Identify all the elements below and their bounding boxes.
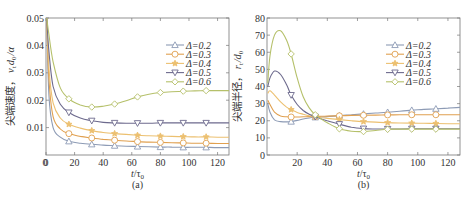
y-tick-label: 30	[255, 98, 265, 109]
diamond-marker	[203, 87, 209, 93]
circle-marker	[288, 114, 294, 120]
legend: Δ=0.2Δ=0.3Δ=0.4Δ=0.5Δ=0.6	[386, 40, 431, 88]
x-tick-label: 0	[43, 157, 48, 168]
series-group	[268, 31, 460, 135]
diamond-marker	[134, 94, 140, 100]
y-axis-label: 尖端速度，vtd0/α	[4, 47, 18, 126]
legend-diamond-marker	[172, 79, 178, 85]
star-marker	[409, 120, 415, 126]
star-marker	[433, 120, 439, 126]
legend-circle-marker	[392, 51, 398, 57]
x-tick-label: 60	[352, 157, 362, 168]
x-tick-label: 80	[155, 157, 165, 168]
y-tick-label: 0.04	[27, 40, 45, 51]
diamond-marker	[180, 88, 186, 94]
tip-velocity-chart: 02040608010012000.010.020.030.040.05Δ=0.…	[0, 0, 232, 203]
y-tick-label: 20	[255, 115, 265, 126]
chart-panel-a: 02040608010012000.010.020.030.040.05Δ=0.…	[0, 0, 232, 203]
panel-label: (b)	[358, 179, 370, 191]
legend-star-marker	[172, 60, 178, 66]
star-marker	[89, 127, 95, 133]
y-tick-label: 10	[255, 132, 265, 143]
star-marker	[134, 132, 140, 138]
x-tick-label: 20	[292, 157, 302, 168]
circle-marker	[203, 140, 209, 146]
legend-label: Δ=0.6	[185, 76, 211, 87]
circle-marker	[433, 112, 439, 118]
circle-marker	[66, 131, 72, 137]
star-marker	[288, 106, 294, 112]
y-tick-label: 0.03	[27, 67, 45, 78]
x-tick-label: 60	[127, 157, 137, 168]
y-axis-label: 尖端半径，rt/d0	[231, 50, 245, 122]
x-tick-label: 40	[322, 157, 332, 168]
diamond-marker	[111, 101, 117, 107]
tip-radius-chart: 2040608010012001020304050607080Δ=0.2Δ=0.…	[231, 0, 463, 203]
x-tick-label: 120	[440, 157, 455, 168]
circle-marker	[180, 140, 186, 146]
y-tick-label: 0.05	[27, 13, 45, 24]
x-tick-label: 40	[98, 157, 108, 168]
star-marker	[66, 121, 72, 127]
legend-label: Δ=0.6	[405, 76, 431, 87]
circle-marker	[112, 137, 118, 143]
chart-panel-b: 2040608010012001020304050607080Δ=0.2Δ=0.…	[231, 0, 463, 203]
star-marker	[203, 134, 209, 140]
circle-marker	[89, 135, 95, 141]
circle-marker	[135, 139, 141, 145]
y-tick-label: 40	[255, 81, 265, 92]
x-tick-label: 80	[383, 157, 393, 168]
diamond-marker	[157, 89, 163, 95]
star-marker	[157, 133, 163, 139]
legend-circle-marker	[172, 51, 178, 57]
diamond-marker	[336, 126, 342, 132]
y-tick-label: 0.02	[27, 95, 45, 106]
triangle-down-marker	[288, 93, 294, 99]
circle-marker	[157, 139, 163, 145]
diamond-marker	[360, 128, 366, 134]
diamond-marker	[89, 104, 95, 110]
y-tick-label: 80	[255, 13, 265, 24]
triangle-down-marker	[66, 110, 72, 116]
y-tick-label: 50	[255, 64, 265, 75]
panel-label: (a)	[132, 179, 143, 191]
x-tick-label: 20	[70, 157, 80, 168]
star-marker	[385, 119, 391, 125]
circle-marker	[385, 112, 391, 118]
y-tick-label: 70	[255, 30, 265, 41]
legend: Δ=0.2Δ=0.3Δ=0.4Δ=0.5Δ=0.6	[166, 40, 211, 88]
x-tick-label: 100	[410, 157, 425, 168]
star-marker	[180, 133, 186, 139]
y-tick-label: 0.01	[27, 122, 45, 133]
x-tick-label: 120	[210, 157, 225, 168]
y-tick-label: 0	[260, 150, 265, 161]
y-tick-label: 60	[255, 47, 265, 58]
diamond-marker	[288, 51, 294, 57]
legend-star-marker	[392, 60, 398, 66]
star-marker	[112, 130, 118, 136]
x-tick-label: 100	[181, 157, 196, 168]
legend-diamond-marker	[392, 79, 398, 85]
circle-marker	[409, 112, 415, 118]
star-marker	[360, 118, 366, 124]
